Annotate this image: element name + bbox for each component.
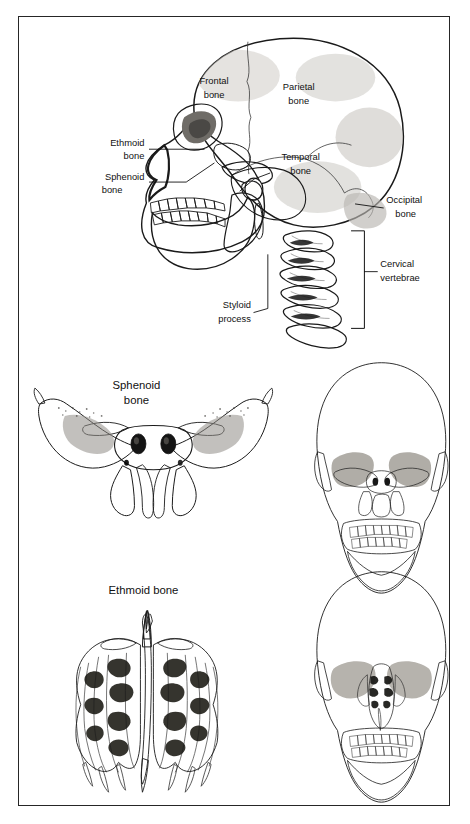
skull-illustration: Ethmoid bone Sphenoid bone Frontal bone … [19,17,449,805]
sphenoid-figure: Sphenoid bone [34,363,448,593]
label-frontal-line2: bone [204,90,225,100]
ethmoid-title: Ethmoid bone [108,584,178,596]
label-cervical-line2: vertebrae [380,273,419,283]
label-ethmoid-line1: Ethmoid [110,138,144,148]
label-styloid-line1: Styloid [223,300,251,310]
anatomical-plate: Ethmoid bone Sphenoid bone Frontal bone … [0,0,470,824]
label-parietal-line1: Parietal [283,82,315,92]
label-occipital-line2: bone [395,209,416,219]
cervical-vertebrae [280,231,346,348]
anterior-skull-sphenoid [315,363,448,593]
ethmoid-figure: Ethmoid bone [76,572,448,802]
label-sphenoid-line1: Sphenoid [105,172,145,182]
label-styloid-line2: process [218,314,251,324]
anterior-skull-ethmoid [315,572,448,802]
label-sphenoid-line2: bone [102,185,123,195]
label-frontal-line1: Frontal [200,76,229,86]
lower-teeth [152,211,225,227]
plate-frame: Ethmoid bone Sphenoid bone Frontal bone … [18,16,450,806]
label-temporal-line1: Temporal [281,152,319,162]
sphenoid-stipple [58,407,249,418]
label-cervical-line1: Cervical [380,259,414,269]
sphenoid-title-line1: Sphenoid [113,379,161,391]
cranium-shading [196,50,403,213]
sphenoid-title-line2: bone [124,394,149,406]
label-ethmoid-line2: bone [124,151,145,161]
lateral-skull-figure: Ethmoid bone Sphenoid bone Frontal bone … [102,38,422,348]
label-occipital-line1: Occipital [386,195,422,205]
label-parietal-line2: bone [288,96,309,106]
label-temporal-line2: bone [290,166,311,176]
